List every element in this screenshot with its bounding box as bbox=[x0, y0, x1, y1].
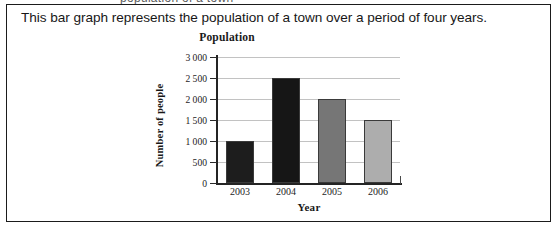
y-axis-tick-label: 1 500 bbox=[161, 115, 207, 126]
y-axis-tick-label: 3 000 bbox=[161, 52, 207, 63]
x-axis-line bbox=[216, 183, 402, 185]
x-axis-title: Year bbox=[217, 201, 401, 213]
y-axis-title-text: Number of people bbox=[155, 83, 166, 167]
x-axis-tick-label: 2004 bbox=[263, 186, 309, 197]
bar-2005 bbox=[318, 99, 346, 183]
y-axis-tick bbox=[210, 99, 217, 100]
bar-chart: Population 3 0002 5002 0001 5001 0005000… bbox=[7, 5, 552, 223]
x-axis-tick-labels: 2003200420052006 bbox=[217, 186, 401, 202]
chart-title: Population bbox=[7, 31, 447, 43]
y-axis-tick bbox=[210, 120, 217, 121]
y-axis-title: Number of people bbox=[153, 65, 167, 185]
y-axis-tick-label: 2 500 bbox=[161, 73, 207, 84]
x-axis-tick-label: 2003 bbox=[217, 186, 263, 197]
bar-2003 bbox=[226, 141, 254, 183]
bar-2004 bbox=[272, 78, 300, 183]
y-axis-tick bbox=[210, 78, 217, 79]
y-axis-tick bbox=[210, 162, 217, 163]
bar-2006 bbox=[364, 120, 392, 183]
y-axis-tick-label: 1 000 bbox=[161, 136, 207, 147]
x-axis-tick-label: 2005 bbox=[309, 186, 355, 197]
y-axis-tick bbox=[210, 183, 217, 184]
y-axis-tick-label: 500 bbox=[161, 157, 207, 168]
y-axis-tick-label: 2 000 bbox=[161, 94, 207, 105]
y-axis-tick bbox=[210, 57, 217, 58]
y-axis-tick bbox=[210, 141, 217, 142]
x-axis-tick-label: 2006 bbox=[355, 186, 401, 197]
bar-series bbox=[217, 57, 401, 183]
question-frame: This bar graph represents the population… bbox=[6, 4, 551, 222]
y-axis-tick-label: 0 bbox=[161, 178, 207, 189]
